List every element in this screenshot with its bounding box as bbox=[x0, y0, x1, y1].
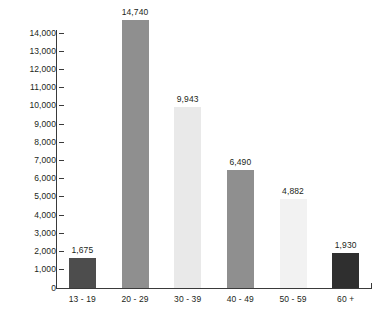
y-axis-tick-label: 14,000 bbox=[29, 28, 59, 37]
bar-value-label: 9,943 bbox=[177, 95, 199, 104]
x-axis-line bbox=[56, 288, 372, 289]
x-axis-category-label: 60 + bbox=[319, 294, 372, 304]
x-axis-category-label: 40 - 49 bbox=[214, 294, 267, 304]
bar[interactable] bbox=[122, 20, 149, 288]
y-axis-tick-label: 11,000 bbox=[30, 83, 59, 92]
bar[interactable] bbox=[332, 253, 359, 288]
bar[interactable] bbox=[227, 170, 254, 288]
plot-area: 1,67514,7409,9436,4904,8821,930 bbox=[56, 30, 372, 288]
bar-group[interactable]: 4,882 bbox=[280, 30, 307, 288]
y-axis-tick-label: 13,000 bbox=[29, 46, 59, 55]
bar-group[interactable]: 6,490 bbox=[227, 30, 254, 288]
bar-group[interactable]: 9,943 bbox=[174, 30, 201, 288]
bar-value-label: 1,930 bbox=[335, 241, 357, 250]
x-axis-category-label: 30 - 39 bbox=[161, 294, 214, 304]
x-axis-category-label: 20 - 29 bbox=[109, 294, 162, 304]
x-axis-category-label: 13 - 19 bbox=[56, 294, 109, 304]
bar[interactable] bbox=[280, 199, 307, 288]
bar-value-label: 4,882 bbox=[282, 187, 304, 196]
y-axis-tick-label: 10,000 bbox=[29, 101, 59, 110]
y-axis-tick-label: 12,000 bbox=[29, 64, 59, 73]
bar-value-label: 1,675 bbox=[71, 246, 93, 255]
x-axis-category-label: 50 - 59 bbox=[267, 294, 320, 304]
bar-group[interactable]: 14,740 bbox=[122, 30, 149, 288]
bar-value-label: 6,490 bbox=[229, 158, 251, 167]
bar[interactable] bbox=[69, 258, 96, 289]
bar-chart: 01,0002,0003,0004,0005,0006,0007,0008,00… bbox=[0, 0, 381, 318]
bar-value-label: 14,740 bbox=[122, 8, 149, 17]
bar-group[interactable]: 1,930 bbox=[332, 30, 359, 288]
bar-group[interactable]: 1,675 bbox=[69, 30, 96, 288]
bar[interactable] bbox=[174, 107, 201, 288]
